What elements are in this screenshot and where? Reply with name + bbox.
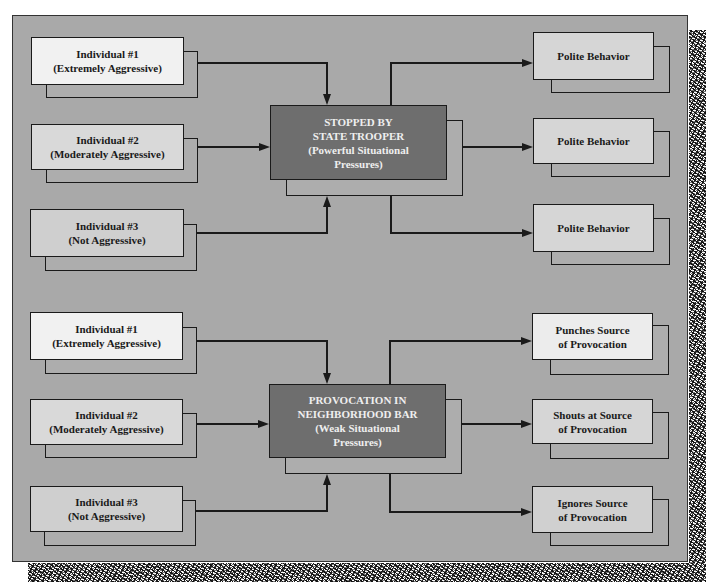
bottom-outcome-3: Ignores Sourceof Provocation xyxy=(532,486,653,533)
situation-line: STATE TROOPER xyxy=(308,129,409,143)
input-title: Individual #1 xyxy=(53,47,162,61)
arrow-down-icon xyxy=(323,373,331,384)
input-subtitle: (Extremely Aggressive) xyxy=(53,61,162,75)
outcome-text: Polite Behavior xyxy=(557,49,629,63)
connector-line xyxy=(389,340,391,384)
input-subtitle: (Not Aggressive) xyxy=(68,233,145,247)
bottom-input-individual-1: Individual #1(Extremely Aggressive) xyxy=(30,312,183,360)
arrow-right-icon xyxy=(521,508,532,516)
connector-line xyxy=(463,146,523,148)
connector-line xyxy=(389,474,391,512)
top-outcome-3: Polite Behavior xyxy=(533,204,654,252)
noise-shadow-bottom xyxy=(28,563,706,582)
arrow-up-icon xyxy=(323,474,331,485)
top-input-individual-3: Individual #3(Not Aggressive) xyxy=(30,209,184,257)
input-subtitle: (Extremely Aggressive) xyxy=(52,336,161,350)
arrow-up-icon xyxy=(323,196,331,207)
top-outcome-2: Polite Behavior xyxy=(533,118,654,164)
connector-line xyxy=(197,232,327,234)
noise-shadow-right xyxy=(689,30,706,582)
connector-line xyxy=(196,423,259,425)
outcome-text: of Provocation xyxy=(557,510,627,524)
connector-line xyxy=(462,423,522,425)
situation-line: Pressures) xyxy=(308,157,409,171)
connector-line xyxy=(326,340,328,374)
arrow-right-icon xyxy=(259,143,270,151)
outcome-text: of Provocation xyxy=(555,337,629,351)
arrow-right-icon xyxy=(521,420,532,428)
input-subtitle: (Moderately Aggressive) xyxy=(50,147,164,161)
connector-line xyxy=(390,232,523,234)
connector-line xyxy=(197,62,327,64)
situation-line: (Weak Situational xyxy=(297,421,417,435)
outcome-text: of Provocation xyxy=(553,422,632,436)
connector-line xyxy=(196,510,327,512)
top-input-individual-1: Individual #1(Extremely Aggressive) xyxy=(31,37,184,85)
arrow-right-icon xyxy=(522,59,533,67)
top-situation-box: STOPPED BY STATE TROOPER (Powerful Situa… xyxy=(270,105,447,180)
bottom-input-individual-3: Individual #3(Not Aggressive) xyxy=(30,486,183,532)
arrow-right-icon xyxy=(521,337,532,345)
connector-line xyxy=(197,146,259,148)
input-title: Individual #1 xyxy=(52,322,161,336)
connector-line xyxy=(389,340,522,342)
bottom-outcome-2: Shouts at Sourceof Provocation xyxy=(532,399,653,444)
input-subtitle: (Not Aggressive) xyxy=(68,509,145,523)
situation-line: (Powerful Situational xyxy=(308,143,409,157)
outcome-text: Punches Source xyxy=(555,323,629,337)
connector-line xyxy=(389,511,522,513)
connector-line xyxy=(390,196,392,233)
input-title: Individual #3 xyxy=(68,495,145,509)
situation-line: PROVOCATION IN xyxy=(297,393,417,407)
input-title: Individual #3 xyxy=(68,219,145,233)
input-subtitle: (Moderately Aggressive) xyxy=(49,422,163,436)
bottom-input-individual-2: Individual #2(Moderately Aggressive) xyxy=(30,399,183,445)
connector-line xyxy=(390,62,392,105)
arrow-right-icon xyxy=(522,229,533,237)
input-title: Individual #2 xyxy=(49,408,163,422)
top-input-individual-2: Individual #2(Moderately Aggressive) xyxy=(31,124,184,170)
connector-line xyxy=(326,484,328,512)
arrow-right-icon xyxy=(522,143,533,151)
outcome-text: Shouts at Source xyxy=(553,408,632,422)
connector-line xyxy=(196,340,327,342)
connector-line xyxy=(326,206,328,234)
bottom-outcome-1: Punches Sourceof Provocation xyxy=(532,313,653,360)
bottom-situation-box: PROVOCATION IN NEIGHBORHOOD BAR (Weak Si… xyxy=(269,384,446,458)
input-title: Individual #2 xyxy=(50,133,164,147)
arrow-down-icon xyxy=(323,94,331,105)
top-outcome-1: Polite Behavior xyxy=(533,32,654,80)
situation-line: Pressures) xyxy=(297,435,417,449)
situation-line: NEIGHBORHOOD BAR xyxy=(297,407,417,421)
outcome-text: Ignores Source xyxy=(557,496,627,510)
outcome-text: Polite Behavior xyxy=(557,221,629,235)
outcome-text: Polite Behavior xyxy=(557,134,629,148)
connector-line xyxy=(390,62,523,64)
situation-line: STOPPED BY xyxy=(308,115,409,129)
arrow-right-icon xyxy=(258,420,269,428)
connector-line xyxy=(326,62,328,95)
